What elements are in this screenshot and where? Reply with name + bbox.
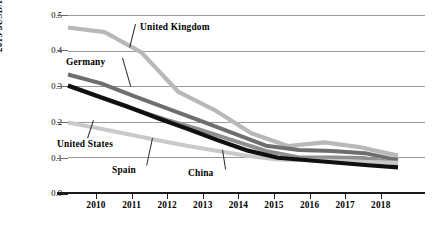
y-tick-mark (57, 50, 68, 51)
x-tick-label: 2011 (122, 200, 141, 210)
annotation-germany: Germany (66, 58, 105, 67)
x-tick-label: 2012 (157, 200, 176, 210)
y-tick-mark (57, 15, 68, 16)
annotation-spain: Spain (112, 166, 136, 175)
x-tick-mark (132, 194, 133, 199)
annotation-united-kingdom: United Kingdom (140, 23, 210, 32)
y-tick-mark (57, 122, 68, 123)
y-tick-mark (57, 86, 68, 87)
x-tick-label: 2014 (229, 200, 248, 210)
x-tick-label: 2015 (264, 200, 283, 210)
x-tick-mark (238, 194, 239, 199)
x-tick-mark (345, 194, 346, 199)
x-tick-label: 2013 (193, 200, 212, 210)
y-tick-mark (57, 158, 68, 159)
x-tick-label: 2016 (300, 200, 319, 210)
x-tick-mark (274, 194, 275, 199)
x-tick-mark (381, 194, 382, 199)
x-tick-mark (96, 194, 97, 199)
x-tick-label: 2017 (335, 200, 354, 210)
line-chart: 2019 $USD/KWH 0.5 0.4 0.3 0.2 0.1 0.0 (0, 0, 448, 227)
x-tick-label: 2010 (86, 200, 105, 210)
x-tick-mark (203, 194, 204, 199)
annotation-united-states: United States (57, 140, 113, 149)
x-axis: 2010 2011 2012 2013 2014 2015 2016 2017 … (68, 194, 425, 224)
x-tick-mark (310, 194, 311, 199)
annotation-china: China (188, 169, 214, 178)
x-tick-label: 2018 (371, 200, 390, 210)
x-tick-mark (167, 194, 168, 199)
y-axis-tick-labels: 0.5 0.4 0.3 0.2 0.1 0.0 (0, 0, 68, 227)
